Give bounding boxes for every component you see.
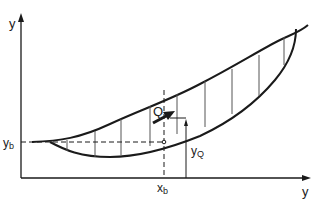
slope-stability-diagram: y y Q xyxy=(0,0,320,202)
xb-label-sub: b xyxy=(163,186,168,196)
yb-label: yb xyxy=(3,136,14,151)
yq-arrow-icon xyxy=(184,119,188,126)
diagram-canvas: y y Q xyxy=(0,0,320,202)
horizontal-axis-arrow-icon xyxy=(302,175,311,181)
slope-surface-curve xyxy=(32,25,308,142)
vertical-axis-label: y xyxy=(9,16,16,31)
vertical-axis-arrow-icon xyxy=(18,13,24,22)
xb-label: xb xyxy=(157,181,168,196)
point-b-marker xyxy=(162,140,166,144)
force-q-label: Q xyxy=(153,104,163,119)
yb-label-sub: b xyxy=(9,141,14,151)
yq-label: yQ xyxy=(191,144,204,159)
horizontal-axis-label: y xyxy=(302,184,309,199)
yq-label-sub: Q xyxy=(197,149,204,159)
